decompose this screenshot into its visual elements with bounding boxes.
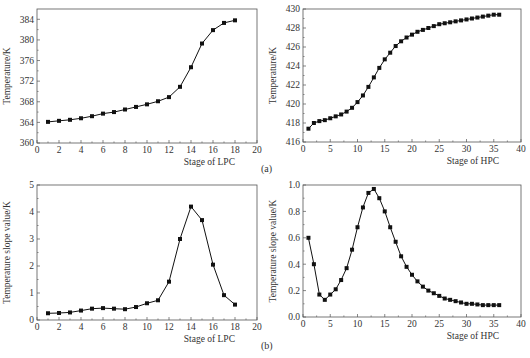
data-point-marker (156, 298, 160, 302)
data-point-marker (437, 294, 441, 298)
data-point-marker (459, 300, 463, 304)
data-point-marker (426, 26, 430, 30)
x-tick-label: 10 (142, 145, 152, 155)
x-tick-label: 12 (164, 145, 174, 155)
chart-b-lpc-slope: 02468101214161820012345Stage of LPCTempe… (2, 180, 262, 344)
x-tick-label: 5 (328, 144, 333, 154)
data-point-marker (79, 309, 83, 313)
x-tick-label: 14 (186, 322, 196, 332)
series-line (48, 20, 235, 122)
data-point-marker (178, 85, 182, 89)
data-point-marker (437, 22, 441, 26)
data-point-marker (415, 279, 419, 283)
data-point-marker (123, 108, 127, 112)
y-tick-label: 376 (20, 56, 35, 66)
y-tick-label: 372 (20, 76, 35, 86)
y-tick-label: 380 (20, 35, 35, 45)
data-point-marker (361, 205, 365, 209)
data-point-marker (465, 17, 469, 21)
plot-frame (303, 9, 521, 142)
data-point-marker (345, 110, 349, 114)
y-tick-label: 3 (29, 234, 34, 244)
data-point-marker (112, 110, 116, 114)
y-tick-label: 0.8 (288, 207, 300, 217)
y-tick-label: 418 (286, 118, 301, 128)
data-point-marker (388, 225, 392, 229)
x-axis-label: Stage of LPC (184, 157, 235, 167)
data-point-marker (377, 66, 381, 70)
y-tick-label: 416 (286, 137, 301, 147)
x-tick-label: 4 (79, 145, 84, 155)
x-tick-label: 6 (101, 145, 106, 155)
y-tick-label: 1 (29, 288, 34, 298)
x-tick-label: 2 (57, 322, 62, 332)
y-tick-label: 0.0 (288, 312, 300, 322)
data-point-marker (405, 36, 409, 40)
x-tick-label: 0 (301, 144, 306, 154)
data-point-marker (123, 307, 127, 311)
y-tick-label: 384 (20, 15, 35, 25)
data-point-marker (459, 18, 463, 22)
data-point-marker (145, 301, 149, 305)
y-tick-label: 0.6 (288, 233, 300, 243)
data-point-marker (339, 112, 343, 116)
data-point-marker (306, 127, 310, 131)
data-point-marker (465, 302, 469, 306)
y-tick-label: 4 (29, 207, 34, 217)
plot-frame (303, 185, 521, 317)
data-point-marker (178, 237, 182, 241)
data-point-marker (101, 306, 105, 310)
chart-a-lpc-temperature: 02468101214161820360364368372376380384St… (2, 9, 262, 167)
x-tick-label: 2 (57, 145, 62, 155)
data-point-marker (383, 57, 387, 61)
x-tick-label: 30 (462, 319, 472, 329)
data-point-marker (492, 13, 496, 17)
y-tick-label: 1.0 (288, 180, 300, 190)
x-tick-label: 5 (328, 319, 333, 329)
chart-canvas: 02468101214161820360364368372376380384St… (0, 0, 530, 358)
chart-b-hpc-slope: 05101520253035400.00.20.40.60.81.0Stage … (268, 180, 526, 341)
y-tick-label: 360 (20, 138, 35, 148)
x-tick-label: 8 (123, 145, 128, 155)
x-axis-label: Stage of LPC (184, 334, 235, 344)
data-point-marker (156, 99, 160, 103)
data-point-marker (405, 265, 409, 269)
data-point-marker (68, 310, 72, 314)
data-point-marker (200, 218, 204, 222)
data-point-marker (317, 293, 321, 297)
x-tick-label: 30 (462, 144, 472, 154)
row-label-a: (a) (261, 163, 272, 174)
y-tick-label: 420 (286, 99, 301, 109)
y-axis-label: Temperature/K (2, 47, 12, 105)
data-point-marker (46, 120, 50, 124)
data-point-marker (323, 298, 327, 302)
data-point-marker (410, 33, 414, 37)
x-tick-label: 20 (407, 144, 417, 154)
data-point-marker (233, 18, 237, 22)
data-point-marker (145, 102, 149, 106)
data-point-marker (492, 303, 496, 307)
data-point-marker (334, 287, 338, 291)
data-point-marker (475, 16, 479, 20)
y-tick-label: 368 (20, 97, 35, 107)
data-point-marker (222, 293, 226, 297)
x-tick-label: 8 (123, 322, 128, 332)
data-point-marker (399, 39, 403, 43)
series-line (48, 207, 235, 314)
x-tick-label: 15 (380, 144, 390, 154)
data-point-marker (366, 191, 370, 195)
data-point-marker (448, 20, 452, 24)
data-point-marker (317, 119, 321, 123)
x-tick-label: 10 (353, 144, 363, 154)
x-tick-label: 0 (301, 319, 306, 329)
x-tick-label: 20 (252, 322, 262, 332)
data-point-marker (90, 307, 94, 311)
data-point-marker (454, 19, 458, 23)
x-tick-label: 35 (489, 319, 499, 329)
data-point-marker (432, 24, 436, 28)
x-tick-label: 20 (252, 145, 262, 155)
data-point-marker (189, 65, 193, 69)
data-point-marker (421, 285, 425, 289)
data-point-marker (497, 303, 501, 307)
data-point-marker (68, 118, 72, 122)
